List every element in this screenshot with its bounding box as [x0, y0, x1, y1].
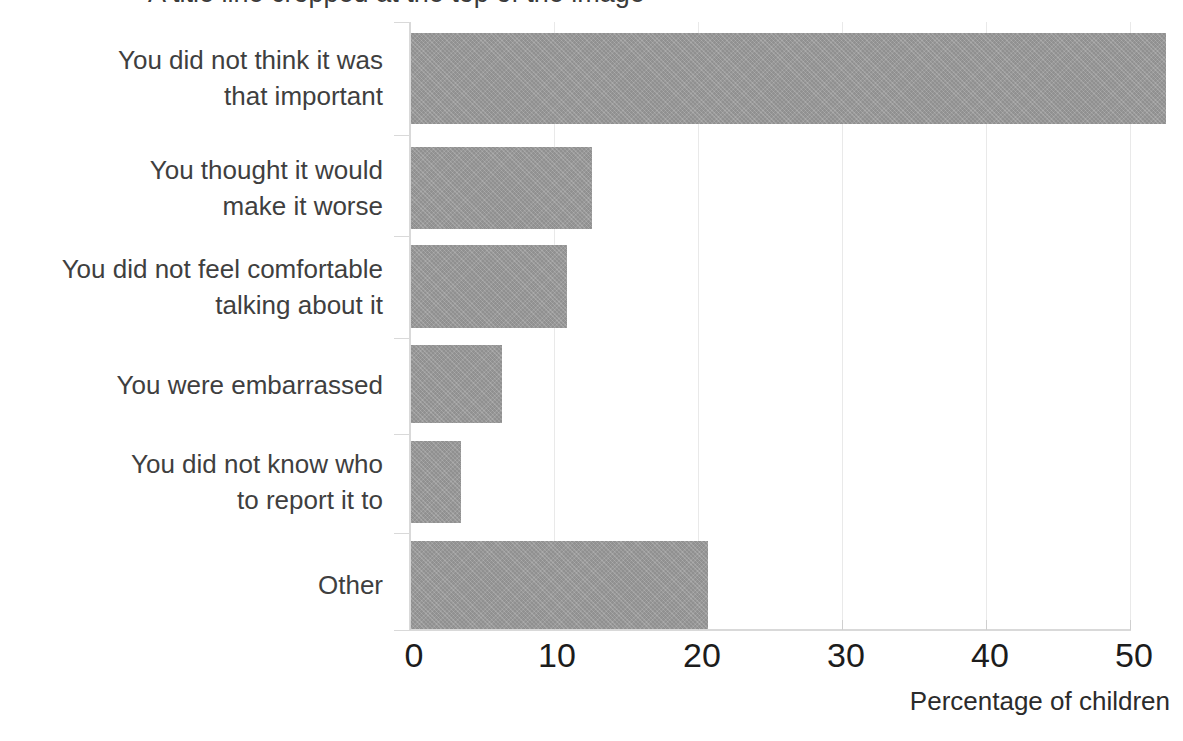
category-label-1: You thought it would make it worse — [23, 152, 383, 224]
bar-0[interactable] — [411, 33, 1166, 124]
y-axis-tick — [394, 630, 410, 631]
bar-1[interactable] — [411, 147, 592, 229]
bar-4[interactable] — [411, 441, 461, 523]
x-tick-label-50: 50 — [1089, 636, 1179, 675]
bar-5[interactable] — [411, 541, 708, 629]
bar-2[interactable] — [411, 245, 567, 328]
category-label-2: You did not feel comfortable talking abo… — [23, 251, 383, 323]
chart-page: A title line cropped at the top of the i… — [0, 0, 1183, 741]
y-axis-tick — [394, 338, 410, 339]
x-axis-tick-30 — [842, 620, 843, 630]
category-label-4: You did not know who to report it to — [23, 446, 383, 518]
x-axis-tick-40 — [986, 620, 987, 630]
x-tick-label-30: 30 — [801, 636, 891, 675]
y-axis-tick — [394, 135, 410, 136]
x-tick-label-20: 20 — [657, 636, 747, 675]
x-axis-tick-50 — [1130, 620, 1131, 630]
y-axis-tick — [394, 236, 410, 237]
x-axis-title: Percentage of children — [760, 686, 1170, 717]
y-axis-category-labels: You did not think it was that important … — [0, 0, 383, 741]
y-axis-tick — [394, 434, 410, 435]
x-axis-line — [409, 629, 1131, 631]
y-axis-tick — [394, 22, 410, 23]
y-axis-tick — [394, 533, 410, 534]
category-label-5: Other — [23, 567, 383, 603]
x-tick-label-40: 40 — [945, 636, 1035, 675]
category-label-0: You did not think it was that important — [23, 42, 383, 114]
bar-chart: You did not think it was that important … — [0, 0, 1183, 741]
x-tick-label-10: 10 — [512, 636, 602, 675]
bar-3[interactable] — [411, 345, 502, 423]
category-label-3: You were embarrassed — [23, 367, 383, 403]
x-tick-label-0: 0 — [369, 636, 459, 675]
